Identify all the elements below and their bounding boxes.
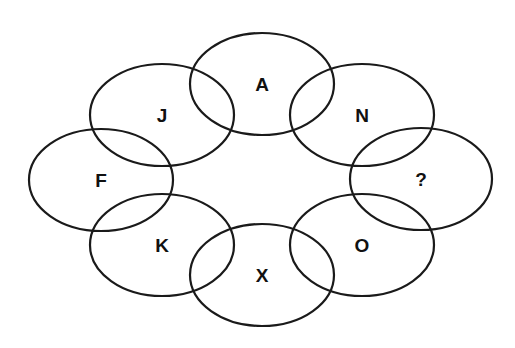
ellipse-top: A — [190, 33, 334, 135]
letter-label: O — [355, 235, 370, 256]
letter-label: K — [155, 235, 169, 256]
letter-label: X — [256, 265, 269, 286]
letter-label: F — [95, 170, 107, 191]
letter-label: J — [157, 105, 168, 126]
ellipse-left: F — [29, 129, 173, 231]
letter-label: A — [255, 74, 269, 95]
ellipse-bottom-right: O — [290, 194, 434, 296]
ellipse-ring: AN?OXKFJ — [0, 0, 515, 348]
ellipse-top-left: J — [90, 64, 234, 166]
ellipse-bottom-left: K — [90, 194, 234, 296]
unknown-letter-label: ? — [415, 169, 427, 190]
letter-label: N — [355, 105, 369, 126]
ellipse-bottom: X — [190, 224, 334, 326]
puzzle-diagram: AN?OXKFJ — [0, 0, 515, 348]
